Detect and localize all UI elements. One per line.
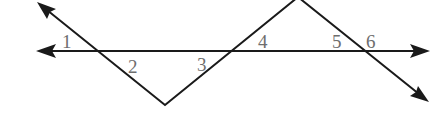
arrowhead-upper-left-icon: [37, 2, 56, 19]
angle-label-5: 5: [332, 31, 342, 52]
angle-diagram: 1 2 3 4 5 6: [0, 0, 446, 114]
angle-label-1: 1: [62, 31, 72, 52]
angle-label-3: 3: [197, 54, 207, 75]
angle-label-4: 4: [258, 31, 268, 52]
angle-label-2: 2: [128, 56, 138, 77]
zigzag-line: [42, 0, 424, 105]
angle-label-6: 6: [366, 31, 376, 52]
